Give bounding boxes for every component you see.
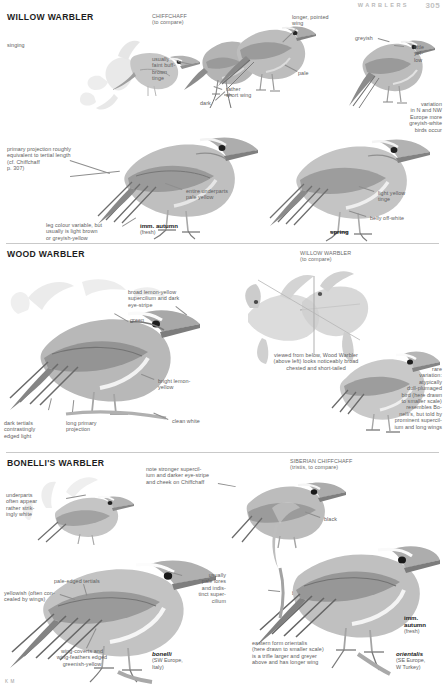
label-green: green — [130, 317, 144, 323]
age-label-spring-main: spring — [330, 228, 349, 235]
compare-label-chiffchaff: CHIFFCHAFF (to compare) — [152, 13, 187, 26]
label-usually-pale-lores: usually pale lores and indis- tinct supe… — [186, 572, 226, 604]
label-pale-edged-tertials: pale-edged tertials — [54, 578, 100, 584]
taxon-bonelli-range: (SW Europe, Italy) — [152, 657, 183, 671]
bird-wood-warbler-main — [6, 272, 236, 422]
label-usually-faint-buff-brown-tinge: usually faint buff- brown tinge — [152, 56, 175, 82]
label-dark-tertials: dark tertials contrastingly edged light — [4, 420, 35, 439]
label-greyish: greyish — [355, 35, 373, 41]
bird-willow-warbler-imm-autumn — [96, 118, 266, 240]
field-guide-page: WARBLERS 305 WILLOW WARBLER CHIFFCHAFF (… — [0, 0, 445, 687]
section-divider-1 — [6, 243, 439, 244]
label-broad-lemon-yellow-supercilium: broad lemon-yellow supercilium and dark … — [128, 289, 179, 308]
age-label-imm-autumn-bonellis-main: imm. autumn — [404, 614, 426, 628]
taxon-bonelli: bonelli(SW Europe, Italy) — [152, 650, 183, 671]
running-title: WARBLERS — [358, 2, 409, 8]
label-primary-projection: primary projection roughly equivalent to… — [7, 146, 71, 172]
section-title-wood-warbler: WOOD WARBLER — [7, 249, 85, 259]
page-number: 305 — [425, 1, 440, 10]
label-little-yellow: little yel- low — [414, 44, 424, 63]
label-entire-underparts-pale-yellow: entire underparts pale yellow — [186, 188, 228, 201]
age-label-imm-autumn-bonellis-sub: (fresh) — [404, 628, 426, 635]
taxon-orientalis-range: (SE Europe, W Turkey) — [396, 657, 425, 671]
label-light-yellow-tinge: light yellow tinge — [378, 190, 405, 203]
label-yellowish-concealed: yellowish (often con- cealed by wings) — [4, 590, 55, 603]
section-title-willow-warbler: WILLOW WARBLER — [7, 12, 94, 22]
section-divider-2 — [6, 452, 439, 453]
taxon-orientalis: orientalis(SE Europe, W Turkey) — [396, 650, 425, 671]
label-rare-variation: rare variation: atypically dull-plumaged… — [366, 366, 442, 430]
bird-willow-warbler-upper — [216, 14, 326, 106]
age-label-imm-autumn: imm. autumn(fresh) — [140, 222, 178, 236]
label-singing: singing — [7, 42, 25, 48]
compare-label-willow-warbler: WILLOW WARBLER (to compare) — [300, 250, 440, 263]
section-title-bonellis-warbler: BONELLI'S WARBLER — [7, 458, 104, 468]
label-belly-off-white: belly off-white — [370, 215, 404, 221]
artist-signature: K M — [5, 679, 15, 684]
label-underparts-often-appear-white: underparts often appear rather strik- in… — [6, 492, 37, 518]
label-pale: pale — [298, 70, 309, 76]
label-leg-colour-variable: leg colour variable, but usually is ligh… — [46, 222, 102, 241]
taxon-orientalis-name: orientalis — [396, 650, 423, 657]
label-longer-pointed-wing: longer, pointed wing — [292, 14, 329, 27]
label-note-stronger-supercilium: note stronger supercil- ium and darker e… — [146, 466, 209, 485]
label-wing-coverts-and-feathers: wing-coverts and wing-feathers edged gre… — [36, 648, 128, 667]
age-label-imm-autumn-sub: (fresh) — [140, 229, 178, 236]
label-bright-lemon-yellow: bright lemon- yellow — [158, 378, 191, 391]
age-label-spring: spring — [330, 228, 349, 235]
age-label-imm-autumn-bonellis: imm. autumn(fresh) — [404, 614, 426, 635]
age-label-imm-autumn-main: imm. autumn — [140, 222, 178, 229]
bird-willow-warbler-spring — [268, 120, 438, 242]
taxon-bonelli-name: bonelli — [152, 650, 172, 657]
label-clean-white: clean white — [172, 418, 200, 424]
label-long-primary-projection: long primary projection — [66, 420, 97, 433]
label-dark: dark — [200, 100, 211, 106]
label-eastern-form-orientalis: eastern form orientalis (here drawn to s… — [252, 640, 324, 666]
